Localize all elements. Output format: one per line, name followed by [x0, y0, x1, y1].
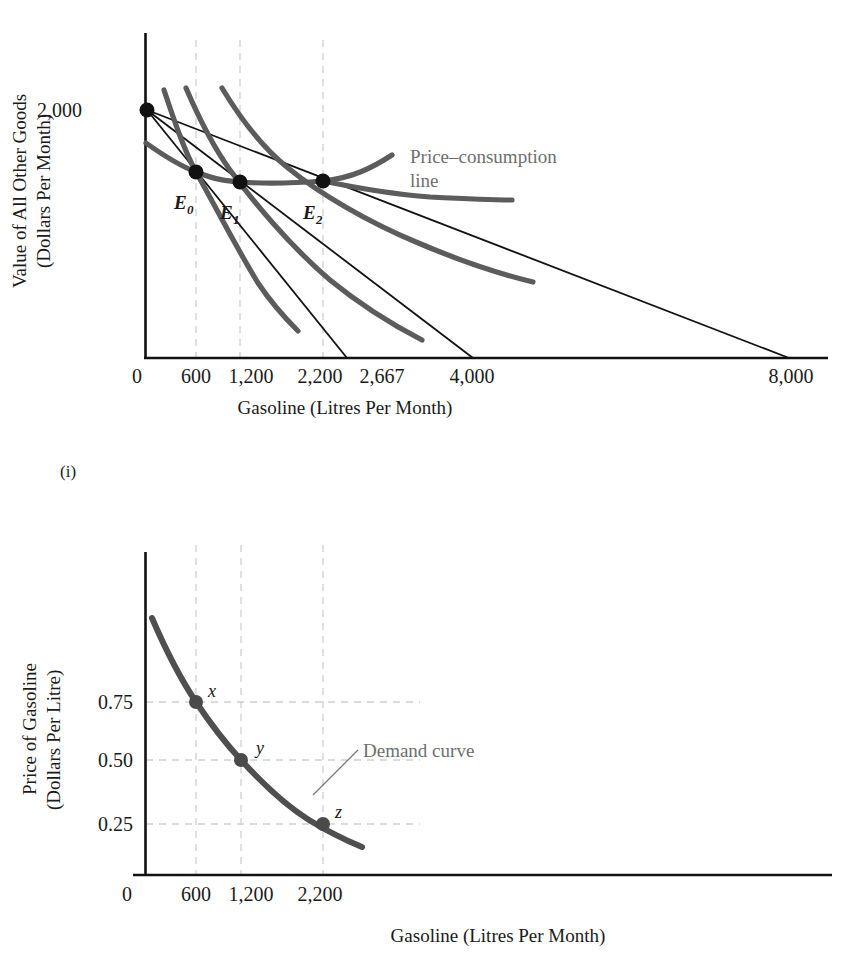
top-x-tick-4000: 4,000	[450, 365, 495, 387]
demand-point-x	[189, 695, 203, 709]
bottom-x-tick-0: 0	[122, 883, 132, 905]
price-consumption-label-line2: line	[410, 170, 439, 191]
price-consumption-label-line1: Price–consumption	[410, 146, 557, 167]
label-E2-subscript: 2	[315, 212, 323, 227]
label-E1: E	[219, 202, 233, 223]
equilibrium-point-E0	[189, 165, 204, 180]
equilibrium-point-E1	[233, 175, 248, 190]
label-E0: E	[173, 192, 187, 213]
bottom-x-tick-600: 600	[181, 883, 211, 905]
demand-curve-label: Demand curve	[363, 740, 474, 761]
economics-figure: E 0 E 1 E 2 Price–consumption line 2,000…	[0, 0, 857, 958]
label-E0-subscript: 0	[187, 202, 194, 217]
top-x-tick-1200: 1,200	[229, 365, 274, 387]
income-endowment-point	[140, 103, 155, 118]
bottom-x-tick-1200: 1,200	[229, 883, 274, 905]
panel-label-i: (i)	[60, 462, 76, 481]
label-E1-subscript: 1	[233, 212, 240, 227]
top-x-axis-title: Gasoline (Litres Per Month)	[238, 397, 453, 419]
bottom-y-tick-050: 0.50	[98, 749, 133, 771]
demand-point-label-y: y	[254, 738, 264, 758]
bottom-y-tick-labels: 0.75 0.50 0.25	[98, 691, 133, 835]
top-x-tick-600: 600	[181, 365, 211, 387]
figure-svg: E 0 E 1 E 2 Price–consumption line 2,000…	[0, 0, 857, 958]
demand-point-y	[234, 753, 248, 767]
bottom-y-axis-title-line1: Price of Gasoline	[19, 663, 40, 795]
label-E2: E	[302, 202, 316, 223]
top-x-tick-8000: 8,000	[769, 365, 814, 387]
bottom-x-tick-2200: 2,200	[298, 883, 343, 905]
demand-point-label-x: x	[207, 681, 216, 701]
bottom-y-tick-025: 0.25	[98, 813, 133, 835]
equilibrium-point-E2	[316, 174, 331, 189]
top-y-axis-title-line1: Value of All Other Goods	[9, 94, 30, 288]
demand-point-label-z: z	[334, 802, 342, 822]
bottom-x-axis-title: Gasoline (Litres Per Month)	[391, 925, 606, 947]
demand-point-z	[316, 817, 330, 831]
top-y-axis-title-line2: (Dollars Per Month)	[33, 114, 55, 268]
bottom-y-tick-075: 0.75	[98, 691, 133, 713]
top-x-tick-2200: 2,200	[298, 365, 343, 387]
top-x-tick-2667: 2,667	[360, 365, 405, 387]
bottom-y-axis-title-line2: (Dollars Per Litre)	[43, 670, 65, 810]
top-x-tick-0: 0	[132, 365, 142, 387]
